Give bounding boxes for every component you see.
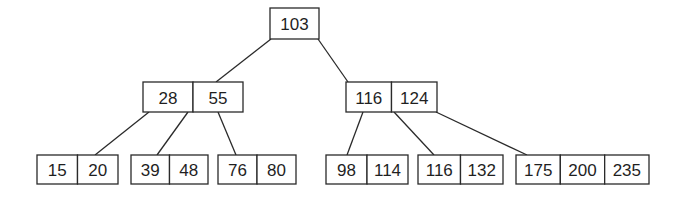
tree-edge <box>218 112 236 155</box>
b-tree-diagram: 1032855152039487680116124981141161321752… <box>0 0 684 200</box>
tree-node: 7680 <box>218 155 296 184</box>
tree-node: 116124 <box>346 82 437 112</box>
tree-node: 175200235 <box>516 155 649 184</box>
key-label: 124 <box>400 89 428 108</box>
key-label: 200 <box>568 161 596 180</box>
key-label: 235 <box>613 161 641 180</box>
tree-node: 98114 <box>326 155 408 184</box>
key-label: 39 <box>141 161 160 180</box>
tree-node: 3948 <box>131 155 208 184</box>
key-label: 48 <box>179 161 198 180</box>
key-label: 80 <box>267 161 286 180</box>
tree-edge <box>318 39 348 82</box>
key-label: 98 <box>337 161 356 180</box>
key-label: 114 <box>374 161 401 180</box>
tree-edge <box>95 112 149 155</box>
key-label: 116 <box>426 161 453 180</box>
tree-node: 1520 <box>37 155 118 184</box>
key-label: 132 <box>468 161 496 180</box>
tree-edge <box>157 112 188 155</box>
tree-edge <box>394 112 434 155</box>
key-label: 116 <box>355 89 382 108</box>
tree-edge <box>436 112 527 155</box>
key-label: 20 <box>88 161 107 180</box>
key-label: 76 <box>228 161 247 180</box>
key-label: 15 <box>48 161 67 180</box>
nodes: 1032855152039487680116124981141161321752… <box>37 8 649 184</box>
key-label: 55 <box>209 89 228 108</box>
tree-node: 2855 <box>143 82 243 112</box>
key-label: 175 <box>524 161 552 180</box>
key-label: 103 <box>280 15 308 34</box>
tree-edge <box>347 112 363 155</box>
tree-edge <box>216 39 271 82</box>
key-label: 28 <box>159 89 178 108</box>
tree-node: 103 <box>270 8 319 39</box>
tree-node: 116132 <box>418 155 503 184</box>
